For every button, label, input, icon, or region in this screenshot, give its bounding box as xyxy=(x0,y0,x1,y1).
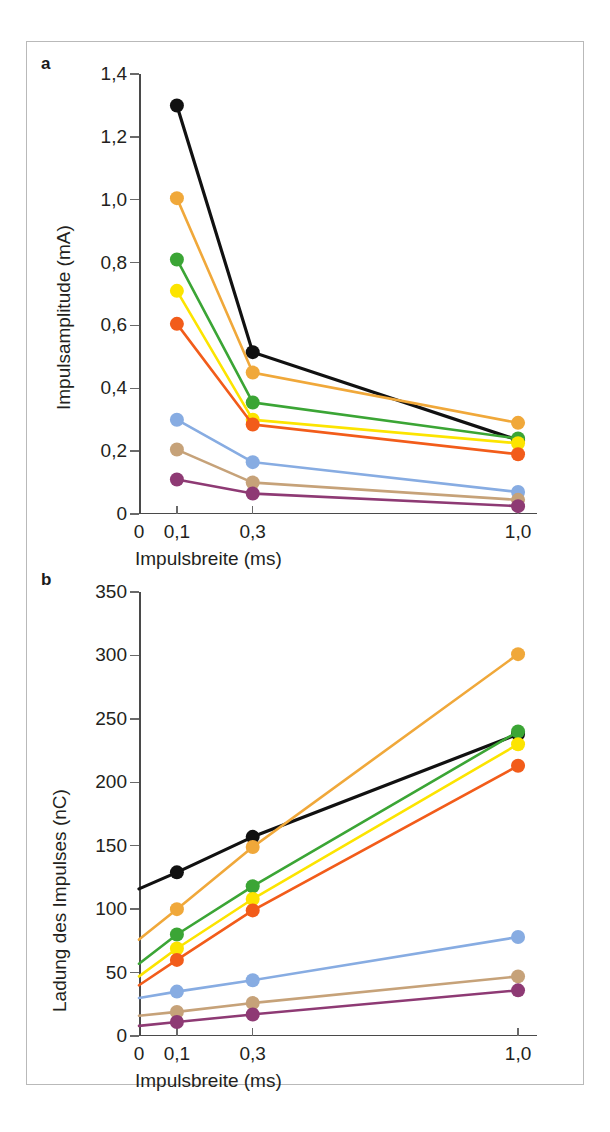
data-point xyxy=(511,930,525,944)
plot-area-b: 05010015020025030035000,10,31,0 Impulsbr… xyxy=(139,592,537,1036)
data-point xyxy=(170,443,184,457)
data-point xyxy=(511,759,525,773)
x-tick-label: 0 xyxy=(134,521,145,543)
y-tick-mark xyxy=(130,513,139,515)
series-line xyxy=(139,734,518,889)
panel-b-letter: b xyxy=(41,570,51,590)
series-line xyxy=(139,732,518,964)
figure-frame: a 00,20,40,60,81,01,21,400,10,31,0 Impul… xyxy=(26,41,584,1085)
data-point xyxy=(170,98,184,112)
series-green xyxy=(139,725,525,964)
panel-a: a 00,20,40,60,81,01,21,400,10,31,0 Impul… xyxy=(27,42,585,562)
y-tick-mark xyxy=(130,199,139,201)
x-tick-label: 1,0 xyxy=(505,1043,531,1065)
data-point xyxy=(246,1007,260,1021)
data-point xyxy=(511,983,525,997)
x-tick-label: 0,3 xyxy=(239,1043,265,1065)
series-purple xyxy=(139,983,525,1029)
data-point xyxy=(170,284,184,298)
data-point xyxy=(170,865,184,879)
y-tick-mark xyxy=(130,262,139,264)
data-point xyxy=(511,737,525,751)
data-point xyxy=(246,395,260,409)
data-point xyxy=(511,416,525,430)
y-tick-mark xyxy=(130,591,139,593)
y-tick-mark xyxy=(130,1035,139,1037)
data-point xyxy=(170,985,184,999)
series-orange xyxy=(170,191,525,430)
data-point xyxy=(511,499,525,513)
y-tick-mark xyxy=(130,782,139,784)
y-tick-label: 1,2 xyxy=(101,126,127,148)
x-tick-label: 0,1 xyxy=(164,1043,190,1065)
y-tick-mark xyxy=(130,908,139,910)
y-tick-mark xyxy=(130,73,139,75)
y-tick-label: 0,2 xyxy=(101,440,127,462)
series-green xyxy=(170,252,525,445)
y-tick-label: 150 xyxy=(95,835,127,857)
series-line xyxy=(177,259,518,438)
series-line xyxy=(177,324,518,454)
series-yellow xyxy=(139,737,525,976)
series-line xyxy=(177,479,518,506)
data-point xyxy=(170,953,184,967)
y-tick-label: 350 xyxy=(95,581,127,603)
data-point xyxy=(511,969,525,983)
data-point xyxy=(170,902,184,916)
data-point xyxy=(170,1015,184,1029)
y-tick-mark xyxy=(130,718,139,720)
x-tick-label: 1,0 xyxy=(505,521,531,543)
data-point xyxy=(511,647,525,661)
data-point xyxy=(170,928,184,942)
data-point xyxy=(246,345,260,359)
data-point xyxy=(246,840,260,854)
y-tick-label: 300 xyxy=(95,644,127,666)
plot-area-a: 00,20,40,60,81,01,21,400,10,31,0 Impulsb… xyxy=(139,74,537,514)
panel-b: b 05010015020025030035000,10,31,0 Impuls… xyxy=(27,562,585,1086)
y-axis-title-b: Ladung des Impulses (nC) xyxy=(49,789,71,1012)
data-point xyxy=(511,447,525,461)
y-tick-mark xyxy=(130,972,139,974)
data-point xyxy=(170,252,184,266)
data-point xyxy=(246,455,260,469)
y-tick-label: 200 xyxy=(95,771,127,793)
y-tick-label: 250 xyxy=(95,708,127,730)
y-tick-label: 50 xyxy=(106,962,127,984)
y-tick-label: 0,6 xyxy=(101,314,127,336)
y-tick-label: 0 xyxy=(116,1025,127,1047)
y-axis-title-a: Impulsamplitude (mA) xyxy=(53,225,75,410)
y-tick-label: 0,4 xyxy=(101,377,127,399)
series-line xyxy=(139,744,518,976)
data-point xyxy=(170,472,184,486)
data-point xyxy=(246,487,260,501)
y-tick-label: 1,0 xyxy=(101,189,127,211)
y-tick-mark xyxy=(130,655,139,657)
series-line xyxy=(177,450,518,500)
y-tick-label: 0 xyxy=(116,503,127,525)
data-point xyxy=(246,879,260,893)
y-tick-label: 1,4 xyxy=(101,63,127,85)
y-tick-mark xyxy=(130,388,139,390)
y-tick-mark xyxy=(130,450,139,452)
data-point xyxy=(246,903,260,917)
data-point xyxy=(170,413,184,427)
panel-a-letter: a xyxy=(41,54,50,74)
x-tick-label: 0,1 xyxy=(164,521,190,543)
y-tick-label: 100 xyxy=(95,898,127,920)
data-point xyxy=(170,191,184,205)
series-black xyxy=(139,727,525,889)
series-red-orange xyxy=(139,759,525,985)
x-axis-title-b: Impulsbreite (ms) xyxy=(135,1070,282,1092)
y-tick-label: 0,8 xyxy=(101,252,127,274)
y-tick-mark xyxy=(130,325,139,327)
x-tick-label: 0,3 xyxy=(239,521,265,543)
y-tick-mark xyxy=(130,845,139,847)
data-point xyxy=(246,973,260,987)
x-tick-label: 0 xyxy=(134,1043,145,1065)
series-line xyxy=(139,766,518,985)
series-layer-a xyxy=(139,74,537,514)
data-point xyxy=(246,366,260,380)
series-layer-b xyxy=(139,592,537,1036)
series-light-blue xyxy=(139,930,525,999)
data-point xyxy=(246,417,260,431)
